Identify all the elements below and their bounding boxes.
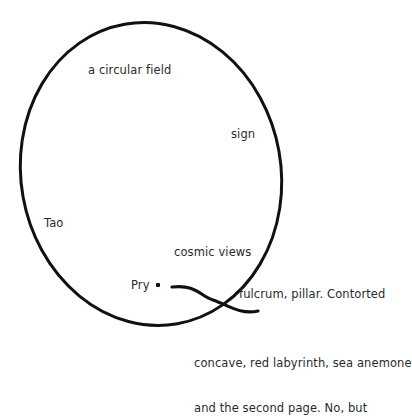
pry-point-marker bbox=[156, 283, 160, 287]
label-a-circular-field: a circular field bbox=[88, 63, 171, 78]
label-sign: sign bbox=[231, 127, 255, 142]
label-cosmic-views: cosmic views bbox=[174, 245, 251, 260]
label-tao: Tao bbox=[44, 216, 64, 231]
label-bottom-text-block: concave, red labyrinth, sea anemone and … bbox=[194, 326, 412, 419]
label-fulcrum-pillar-contorted: fulcrum, pillar. Contorted bbox=[239, 287, 385, 302]
label-pry: Pry bbox=[131, 278, 150, 293]
bottom-text-line-1: concave, red labyrinth, sea anemone bbox=[194, 356, 412, 371]
bottom-text-line-2: and the second page. No, but bbox=[194, 401, 412, 416]
